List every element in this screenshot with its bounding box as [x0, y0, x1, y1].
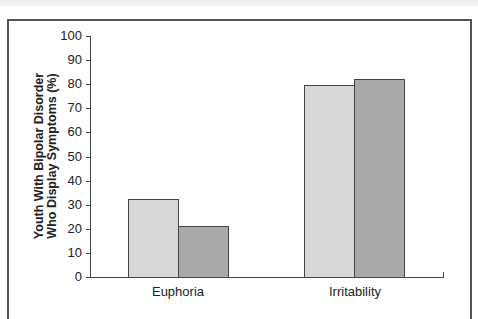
bar-irritability-series-2 [354, 79, 405, 278]
y-tick-label: 50 [40, 150, 82, 164]
y-tick-label: 20 [40, 222, 82, 236]
y-tick-label: 80 [40, 77, 82, 91]
y-tick-label: 100 [40, 29, 82, 43]
y-tick-label: 90 [40, 53, 82, 67]
y-tick-label: 0 [40, 270, 82, 284]
y-tick-label: 40 [40, 174, 82, 188]
bar-euphoria-series-1 [128, 199, 179, 278]
bar-euphoria-series-2 [178, 226, 229, 278]
category-label-irritability: Irritability [285, 284, 425, 299]
category-label-euphoria: Euphoria [108, 284, 248, 299]
y-tick-label: 70 [40, 101, 82, 115]
y-tick-label: 60 [40, 125, 82, 139]
x-axis-end-tick [443, 272, 444, 278]
y-tick-label: 30 [40, 198, 82, 212]
y-axis-line [90, 36, 91, 277]
y-tick-label: 10 [40, 246, 82, 260]
bar-irritability-series-1 [304, 85, 355, 278]
cropped-text-strip [0, 0, 478, 6]
